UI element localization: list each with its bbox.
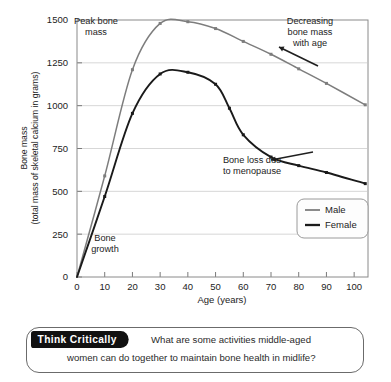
annotation-decreasing-bone-mass: Decreasingbone masswith age — [287, 16, 333, 48]
data-point-marker — [364, 182, 367, 185]
y-axis-label-primary: Bone mass — [19, 127, 29, 170]
x-axis-ticks: 0102030405060708090100 — [74, 272, 362, 292]
x-tick-label: 70 — [266, 281, 277, 292]
annotation-peak-bone-mass: Peak bonemass — [74, 16, 118, 37]
y-axis-label-secondary: (total mass of skeletal calcium in grams… — [30, 71, 40, 224]
annotation-bone-growth: Bonegrowth — [91, 233, 119, 254]
y-tick-label: 1500 — [47, 14, 68, 25]
data-point-marker — [131, 112, 134, 115]
annotation-text: Peak bone — [74, 16, 118, 26]
series-line — [77, 70, 365, 277]
x-tick-label: 50 — [210, 281, 221, 292]
legend-label-male[interactable]: Male — [325, 204, 346, 215]
x-tick-label: 20 — [127, 281, 138, 292]
annotation-text: bone mass — [288, 27, 333, 37]
x-tick-label: 60 — [238, 281, 249, 292]
annotation-text: Bone — [94, 233, 115, 243]
annotation-text: mass — [85, 27, 107, 37]
data-point-marker — [159, 22, 162, 25]
x-tick-label: 0 — [74, 281, 79, 292]
data-point-marker — [325, 82, 328, 85]
data-point-marker — [270, 53, 273, 56]
think-critically-tag: Think Critically — [31, 331, 129, 348]
data-point-marker — [325, 171, 328, 174]
data-point-marker — [103, 195, 106, 198]
data-point-marker — [364, 103, 367, 106]
y-tick-label: 500 — [52, 186, 68, 197]
annotation-bone-loss-menopause: Bone loss dueto menopause — [223, 155, 281, 176]
x-tick-label: 90 — [321, 281, 332, 292]
annotation-text: with age — [292, 38, 327, 48]
y-tick-label: 1000 — [47, 100, 68, 111]
data-point-marker — [131, 68, 134, 71]
series-female — [77, 70, 367, 277]
annotation-layer: Peak bonemassDecreasingbone masswith age… — [74, 16, 333, 254]
annotation-text: to menopause — [223, 166, 281, 176]
y-tick-label: 250 — [52, 229, 68, 240]
x-tick-label: 100 — [346, 281, 362, 292]
y-tick-label: 750 — [52, 143, 68, 154]
legend-label-female[interactable]: Female — [325, 219, 357, 230]
think-critically-callout: Think Critically What are some activitie… — [26, 327, 364, 373]
data-point-marker — [242, 133, 245, 136]
question-text-line-2: women can do together to maintain bone h… — [67, 352, 367, 364]
x-tick-label: 80 — [293, 281, 304, 292]
data-point-marker — [159, 72, 162, 75]
data-point-marker — [186, 20, 189, 23]
data-point-marker — [214, 27, 217, 30]
data-point-marker — [228, 107, 231, 110]
data-point-marker — [214, 83, 217, 86]
data-point-marker — [186, 71, 189, 74]
data-point-marker — [103, 174, 106, 177]
data-point-marker — [242, 40, 245, 43]
data-point-marker — [297, 164, 300, 167]
data-point-marker — [297, 67, 300, 70]
chart-svg: 0250500750100012501500 01020304050607080… — [0, 0, 391, 318]
y-tick-label: 1250 — [47, 57, 68, 68]
bone-mass-chart: 0250500750100012501500 01020304050607080… — [0, 0, 391, 318]
question-text-line-1: What are some activities middle-aged — [151, 334, 359, 346]
annotation-text: growth — [91, 244, 119, 254]
x-tick-label: 10 — [99, 281, 110, 292]
annotation-text: Decreasing — [287, 16, 333, 26]
chart-legend[interactable]: MaleFemale — [297, 199, 368, 238]
x-axis-label: Age (years) — [197, 294, 246, 305]
x-tick-label: 40 — [183, 281, 194, 292]
x-tick-label: 30 — [155, 281, 166, 292]
y-tick-label: 0 — [63, 271, 68, 282]
figure: 0250500750100012501500 01020304050607080… — [0, 0, 391, 382]
